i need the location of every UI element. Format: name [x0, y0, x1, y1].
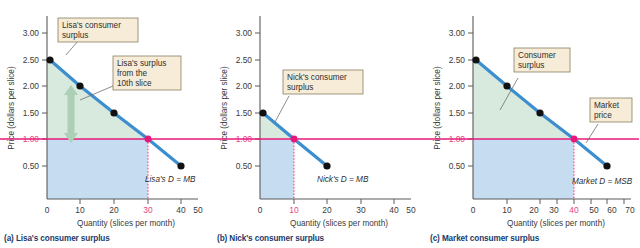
callout-leader-b-1 — [275, 96, 289, 122]
data-point-c — [603, 162, 610, 169]
y-tick-label-c-1: 2.50 — [449, 55, 466, 65]
callout-tenth-slice-a: Lisa's surplus from the 10th slice — [113, 56, 181, 90]
equilibrium-point-a — [145, 136, 152, 143]
callout-line: from the — [117, 69, 147, 78]
callout-line: surplus — [62, 31, 88, 40]
equilibrium-point-b — [291, 136, 298, 143]
y-axis-title-c: Price (dollars per slice) — [433, 66, 442, 150]
callout-consumer-surplus-c: Consumer surplus — [514, 48, 570, 72]
data-point-a — [110, 109, 117, 116]
panel-lisa-consumer-surplus: 3.00 2.50 2.00 1.50 1.00 0.50 0 10 20 30… — [0, 0, 213, 248]
expenditure-area-b — [260, 139, 294, 199]
data-point-a — [46, 56, 53, 63]
callout-line: Nick's consumer — [287, 73, 347, 82]
y-tick-label-c-3: 1.50 — [449, 108, 466, 118]
callout-market-price-c: Market price — [590, 98, 632, 122]
callout-line: price — [594, 111, 612, 120]
data-point-c — [536, 109, 543, 116]
x-tick-label-b-5: 50 — [406, 205, 416, 215]
y-tick-label-a-3: 1.50 — [23, 108, 40, 118]
callout-line: Consumer — [518, 51, 556, 60]
y-tick-label-b-1: 2.50 — [236, 55, 253, 65]
x-tick-label-a-3: 30 — [143, 205, 153, 215]
x-tick-label-b-2: 20 — [322, 205, 332, 215]
x-axis-title-b: Quantity (slices per month) — [290, 219, 388, 228]
x-tick-label-b-3: 30 — [356, 205, 366, 215]
callout-consumer-surplus-b: Nick's consumer surplus — [283, 70, 363, 94]
y-tick-label-a-0: 3.00 — [23, 28, 40, 38]
demand-curve-label-b: Nick's D = MB — [317, 175, 369, 184]
x-tick-label-a-0: 0 — [45, 205, 50, 215]
data-point-b — [259, 109, 266, 116]
x-tick-label-c-2: 20 — [529, 205, 539, 215]
data-point-a — [177, 162, 184, 169]
panel-nick-consumer-surplus: 3.00 2.50 2.00 1.50 1.00 0.50 0 10 20 30… — [213, 0, 426, 248]
data-point-a — [76, 82, 83, 89]
y-tick-label-a-1: 2.50 — [23, 55, 40, 65]
callout-line: surplus — [518, 61, 544, 70]
caption-panel-a: (a) Lisa's consumer surplus — [4, 234, 110, 243]
callout-line: surplus — [287, 83, 313, 92]
y-tick-label-c-2: 2.00 — [449, 81, 466, 91]
x-tick-label-c-3: 30 — [549, 205, 559, 215]
y-axis-title-a: Price (dollars per slice) — [7, 66, 16, 150]
callout-line: 10th slice — [117, 79, 152, 88]
expenditure-area-c — [473, 139, 574, 199]
y-tick-label-c-5: 0.50 — [449, 161, 466, 171]
demand-curve-label-a: Lisa's D = MB — [145, 175, 196, 184]
callout-leader-c-2 — [586, 124, 598, 143]
panel-market-consumer-surplus: 3.00 2.50 2.00 1.50 1.00 0.50 0 10 20 30… — [426, 0, 639, 248]
x-tick-label-c-6: 60 — [607, 205, 617, 215]
x-axis-title-a: Quantity (slices per month) — [77, 219, 175, 228]
consumer-surplus-figure: 3.00 2.50 2.00 1.50 1.00 0.50 0 10 20 30… — [0, 0, 640, 248]
x-tick-label-a-2: 20 — [109, 205, 119, 215]
x-tick-label-c-7: 70 — [625, 205, 635, 215]
y-tick-label-b-5: 0.50 — [236, 161, 253, 171]
x-tick-label-c-1: 10 — [502, 205, 512, 215]
y-tick-label-a-2: 2.00 — [23, 81, 40, 91]
data-point-c — [503, 82, 510, 89]
y-tick-label-b-3: 1.50 — [236, 108, 253, 118]
y-tick-label-b-2: 2.00 — [236, 81, 253, 91]
x-tick-label-a-4: 40 — [176, 205, 186, 215]
expenditure-area-a — [47, 139, 148, 199]
x-tick-label-a-1: 10 — [75, 205, 85, 215]
x-tick-label-c-5: 50 — [589, 205, 599, 215]
callout-line: Lisa's consumer — [62, 21, 121, 30]
demand-curve-label-c: Market D = MSB — [572, 177, 633, 186]
x-tick-label-a-5: 50 — [193, 205, 203, 215]
x-tick-label-c-0: 0 — [471, 205, 476, 215]
y-axis-title-b: Price (dollars per slice) — [220, 66, 229, 150]
x-tick-label-b-0: 0 — [258, 205, 263, 215]
caption-panel-b: (b) Nick's consumer surplus — [217, 234, 324, 243]
x-tick-label-b-1: 10 — [289, 205, 299, 215]
y-tick-label-a-5: 0.50 — [23, 161, 40, 171]
x-tick-label-c-4: 40 — [569, 205, 579, 215]
caption-panel-c: (c) Market consumer surplus — [430, 234, 539, 243]
callout-line: Lisa's surplus — [117, 59, 166, 68]
callout-line: Market — [594, 101, 620, 110]
x-tick-label-b-4: 40 — [389, 205, 399, 215]
equilibrium-point-c — [571, 136, 578, 143]
callout-leader-a-1 — [66, 41, 78, 55]
data-point-c — [472, 56, 479, 63]
callout-consumer-surplus-a: Lisa's consumer surplus — [58, 18, 138, 42]
y-tick-label-b-0: 3.00 — [236, 28, 253, 38]
data-point-b — [323, 162, 330, 169]
x-axis-title-c: Quantity (slices per month) — [507, 219, 605, 228]
y-tick-label-c-0: 3.00 — [449, 28, 466, 38]
